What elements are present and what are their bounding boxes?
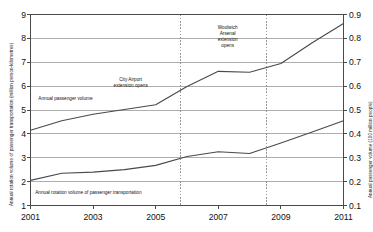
x-axis-tick-label: 2005 (146, 212, 165, 222)
x-axis-tick-label: 2007 (209, 212, 228, 222)
y-axis-left-tick-label: 1 (8, 201, 26, 211)
chart-container: Annual rotation volume of passenger tran… (0, 0, 373, 232)
y-axis-left-tick-label: 6 (8, 81, 26, 91)
y-axis-left-tick-label: 2 (8, 177, 26, 187)
annotation-line: extension opens (114, 83, 148, 89)
x-axis-tick-label: 2001 (21, 212, 40, 222)
annotation-woolwich-arsenal: WoolwichArsenalextensionopens (218, 25, 238, 50)
y-axis-left-tick-label: 9 (8, 10, 26, 20)
data-series-line-0 (31, 24, 344, 131)
annotation-line: opens (218, 43, 238, 49)
y-axis-right-tick-label: 0.5 (349, 105, 361, 115)
lower-series-label: Annual rotation volume of passenger tran… (35, 190, 141, 196)
y-axis-right-tick-label: 0.8 (349, 33, 361, 43)
y-axis-right-tick-label: 0.3 (349, 153, 361, 163)
upper-series-label: Annual passenger volume (38, 96, 92, 102)
y-axis-left-tick-label: 8 (8, 33, 26, 43)
x-axis-tick-label: 2011 (334, 212, 352, 222)
y-axis-left-tick-label: 7 (8, 57, 26, 67)
y-axis-left-tick-label: 4 (8, 129, 26, 139)
y-axis-right-tick-label: 0.1 (349, 201, 361, 211)
annotation-city-airport: City Airportextension opens (114, 77, 148, 89)
annotation-line: extension (218, 37, 238, 43)
y-axis-right-tick-label: 0.7 (349, 57, 361, 67)
y-axis-right-tick-label: 0.4 (349, 129, 361, 139)
plot-area (0, 0, 373, 232)
data-series-line-1 (31, 121, 344, 181)
x-axis-tick-label: 2009 (271, 212, 290, 222)
x-axis-tick-label: 2003 (84, 212, 103, 222)
y-axis-right-tick-label: 0.9 (349, 10, 361, 20)
y-axis-right-tick-label: 0.6 (349, 81, 361, 91)
y-axis-left-tick-label: 3 (8, 153, 26, 163)
y-axis-left-tick-label: 5 (8, 105, 26, 115)
y-axis-right-tick-label: 0.2 (349, 177, 361, 187)
